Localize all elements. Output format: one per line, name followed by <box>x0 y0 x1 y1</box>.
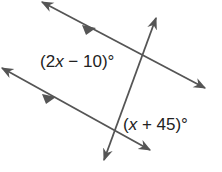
angle-bottom-var: x <box>129 115 138 134</box>
parallel-line-top <box>42 2 205 88</box>
diagram-lines <box>0 0 222 172</box>
angle-top-var: x <box>55 52 64 71</box>
angle-top-prefix: (2 <box>40 52 55 71</box>
angle-label-top: (2x − 10)° <box>40 52 114 72</box>
angle-top-suffix: − 10)° <box>64 52 115 71</box>
parallel-line-bottom <box>2 68 150 150</box>
geometry-diagram: (2x − 10)° (x + 45)° <box>0 0 222 172</box>
angle-label-bottom: (x + 45)° <box>123 115 188 135</box>
angle-bottom-suffix: + 45)° <box>137 115 188 134</box>
parallel-marker-icon <box>42 94 56 104</box>
